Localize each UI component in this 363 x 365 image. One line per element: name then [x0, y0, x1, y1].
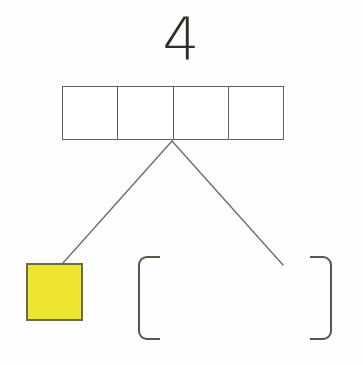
- connector-line-left: [63, 141, 172, 263]
- total-number: 4: [0, 8, 363, 70]
- bar-cell-3[interactable]: [174, 87, 229, 139]
- bar-cell-1[interactable]: [63, 87, 118, 139]
- bracket-left-icon: [138, 256, 160, 340]
- bar-cell-4[interactable]: [229, 87, 283, 139]
- bar-model: [62, 86, 284, 140]
- bar-cell-2[interactable]: [118, 87, 173, 139]
- part-bracket-empty[interactable]: [138, 256, 332, 340]
- bracket-right-icon: [310, 256, 332, 340]
- part-square-filled[interactable]: [26, 263, 83, 321]
- connector-line-right: [172, 141, 283, 265]
- worksheet-canvas: 4: [0, 0, 363, 365]
